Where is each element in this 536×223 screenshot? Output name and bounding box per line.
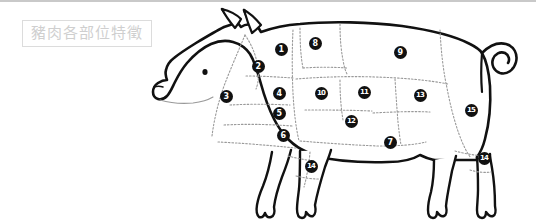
pig-mouth-line bbox=[160, 97, 213, 103]
pig-tail-root bbox=[481, 53, 482, 92]
pig-cuts-diagram-page: 豬肉各部位特徵 bbox=[0, 0, 536, 223]
cut-marker-11[interactable]: 11 bbox=[358, 86, 371, 99]
cut-marker-13[interactable]: 13 bbox=[414, 89, 427, 102]
pig-nostril-line bbox=[154, 86, 163, 87]
pig-body-path bbox=[153, 9, 490, 162]
pig-front-leg-far bbox=[257, 150, 291, 217]
pig-ear-back bbox=[222, 9, 241, 28]
cut-marker-14-rear[interactable]: 14 bbox=[478, 152, 491, 165]
divider-head-shoulder bbox=[212, 35, 245, 136]
cut-marker-3[interactable]: 3 bbox=[220, 90, 233, 103]
pig-eye bbox=[202, 69, 207, 75]
divider-6-lower bbox=[218, 142, 296, 148]
cut-marker-12[interactable]: 12 bbox=[345, 115, 358, 128]
cut-marker-9[interactable]: 9 bbox=[394, 46, 407, 59]
cut-marker-6[interactable]: 6 bbox=[277, 129, 290, 142]
pig-illustration bbox=[0, 0, 536, 223]
cut-marker-1[interactable]: 1 bbox=[275, 43, 288, 56]
cut-marker-4[interactable]: 4 bbox=[273, 87, 286, 100]
pig-rear-leg-far bbox=[428, 156, 456, 218]
cut-marker-2[interactable]: 2 bbox=[252, 60, 265, 73]
cut-marker-5[interactable]: 5 bbox=[273, 107, 286, 120]
cut-marker-15[interactable]: 15 bbox=[465, 104, 478, 117]
cut-marker-14-front[interactable]: 14 bbox=[305, 160, 318, 173]
cut-marker-7[interactable]: 7 bbox=[384, 136, 397, 149]
cut-marker-8[interactable]: 8 bbox=[309, 37, 322, 50]
pig-body-outline bbox=[153, 9, 490, 162]
cut-marker-10[interactable]: 10 bbox=[315, 87, 328, 100]
